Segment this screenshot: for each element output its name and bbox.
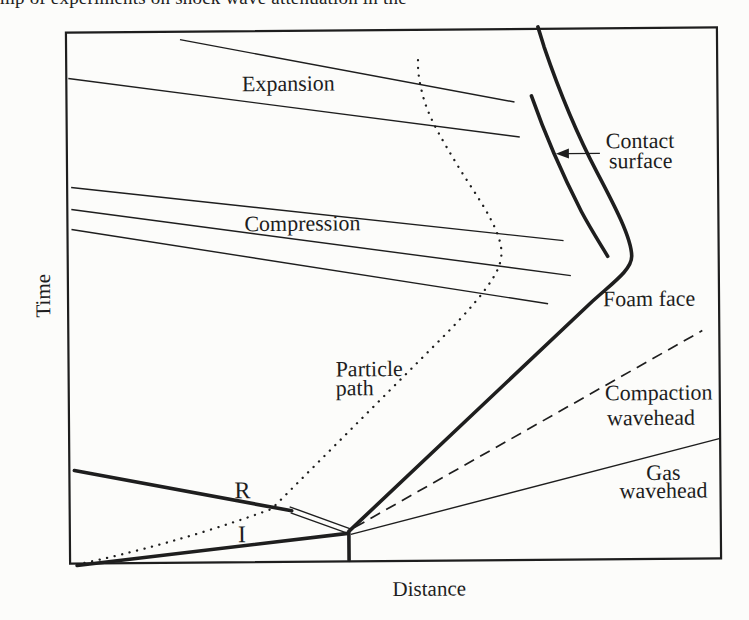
- particle-path-curve: [73, 57, 504, 564]
- y-axis-label: Time: [31, 274, 55, 318]
- x-axis-label: Distance: [392, 576, 466, 601]
- compression-wave-line-3: [71, 226, 548, 308]
- compression-label: Compression: [244, 210, 360, 236]
- contact-surface-curve: [531, 95, 607, 257]
- contact-surface-arrowhead-icon: [556, 149, 569, 159]
- gas-wavehead-label-line2: wavehead: [619, 478, 707, 504]
- reflected-shock-line: [74, 469, 291, 513]
- reflected-shock-branch-lower: [291, 512, 348, 533]
- contact-surface-arrow: [556, 148, 600, 158]
- scanned-figure-page: mp of experiments on shock wave attenuat…: [0, 0, 749, 620]
- particle-path-label-line2: path: [336, 375, 374, 400]
- reflected-shock-branch-upper: [290, 506, 352, 529]
- expansion-wave-line-1: [180, 37, 515, 105]
- reflected-shock-label: R: [234, 477, 250, 503]
- compaction-wavehead-label-line2: wavehead: [607, 405, 695, 431]
- wave-diagram: Expansion Compression Contact surface Fo…: [0, 0, 749, 620]
- incident-shock-label: I: [238, 521, 246, 547]
- contact-surface-label-line2: surface: [609, 148, 673, 173]
- expansion-label: Expansion: [242, 70, 335, 96]
- foam-face-label: Foam face: [603, 286, 695, 312]
- compaction-wavehead-label-line1: Compaction: [605, 379, 713, 405]
- foam-face-curve: [345, 26, 634, 560]
